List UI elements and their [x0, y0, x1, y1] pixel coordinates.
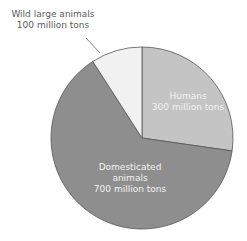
label-dom-name-1: Domesticated	[90, 162, 170, 173]
label-humans-value: 300 million tons	[148, 102, 228, 113]
label-humans-name: Humans	[148, 91, 228, 102]
label-wild: Wild large animals 100 million tons	[10, 9, 96, 31]
label-humans: Humans 300 million tons	[148, 91, 228, 113]
wild-leader-line	[86, 38, 100, 53]
label-wild-value: 100 million tons	[10, 20, 96, 31]
pie-chart	[0, 0, 247, 241]
pie-slices	[51, 47, 233, 229]
label-dom-value: 700 million tons	[90, 184, 170, 195]
label-domesticated: Domesticated animals 700 million tons	[90, 162, 170, 195]
label-wild-name: Wild large animals	[10, 9, 96, 20]
label-dom-name-2: animals	[90, 173, 170, 184]
